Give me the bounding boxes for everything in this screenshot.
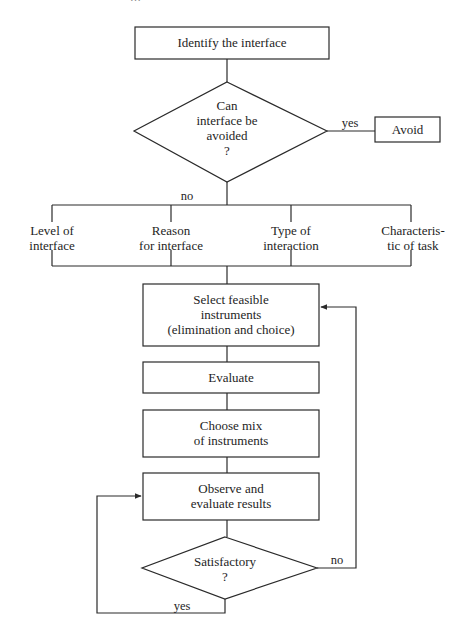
factor-line: tic of task xyxy=(368,238,458,253)
select-line3: (elimination and choice) xyxy=(143,322,319,337)
decision-avoid-line2: interface be xyxy=(170,113,284,128)
factor-line: Characteris- xyxy=(368,223,458,238)
select-line2: instruments xyxy=(143,307,319,322)
observe-line2: evaluate results xyxy=(143,496,319,511)
choose-line2: of instruments xyxy=(143,433,319,448)
satisfactory-line2: ? xyxy=(170,569,280,584)
factor-line: Type of xyxy=(246,223,336,238)
observe-label: Observe and evaluate results xyxy=(143,481,319,511)
choose-line1: Choose mix xyxy=(143,418,319,433)
select-label: Select feasible instruments (elimination… xyxy=(143,292,319,337)
decision-avoid-line4: ? xyxy=(170,143,284,158)
factor-line: Level of xyxy=(12,223,92,238)
factor-level-of-interface: Level of interface xyxy=(12,223,92,253)
identify-label: Identify the interface xyxy=(135,35,329,50)
factor-line: Reason xyxy=(121,223,221,238)
edge-label-no-avoid: no xyxy=(175,189,199,204)
factor-line: for interface xyxy=(121,238,221,253)
factor-line: interaction xyxy=(246,238,336,253)
observe-line1: Observe and xyxy=(143,481,319,496)
decision-satisfactory-label: Satisfactory ? xyxy=(170,554,280,584)
factor-characteristic-of-task: Characteris- tic of task xyxy=(368,223,458,253)
choose-label: Choose mix of instruments xyxy=(143,418,319,448)
factor-type-of-interaction: Type of interaction xyxy=(246,223,336,253)
decision-avoid-label: Can interface be avoided ? xyxy=(170,98,284,158)
edge-label-yes-avoid: yes xyxy=(338,116,362,131)
factor-reason-for-interface: Reason for interface xyxy=(121,223,221,253)
edge-label-yes-satisfactory: yes xyxy=(170,599,194,614)
avoid-label: Avoid xyxy=(375,122,440,137)
satisfactory-line1: Satisfactory xyxy=(170,554,280,569)
decision-avoid-line1: Can xyxy=(170,98,284,113)
evaluate-label: Evaluate xyxy=(143,370,319,385)
decision-avoid-line3: avoided xyxy=(170,128,284,143)
edge-label-no-satisfactory: no xyxy=(326,553,348,568)
select-line1: Select feasible xyxy=(143,292,319,307)
feedback-no-arrow xyxy=(317,307,356,568)
factor-line: interface xyxy=(12,238,92,253)
